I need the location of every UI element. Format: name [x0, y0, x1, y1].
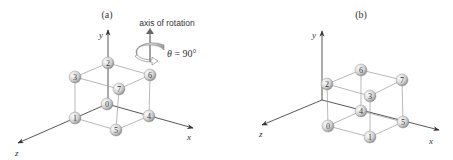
panel-a-label: (a): [101, 9, 112, 21]
cube-edges-a: [75, 63, 150, 130]
node-b-2: 2: [321, 78, 333, 90]
x-axis-label: x: [428, 136, 433, 146]
svg-text:1: 1: [368, 133, 372, 142]
cube-rotation-diagram: (a) y x z axis of rotation θ = 90°: [0, 0, 453, 160]
axis-of-rotation-label: axis of rotation: [139, 18, 195, 28]
node-b-5: 5: [397, 116, 409, 128]
svg-text:0: 0: [326, 122, 330, 131]
panel-b: (b) y x z 6 2 7 3 4: [258, 9, 439, 146]
node-b-4: 4: [355, 105, 367, 117]
y-axis-label: y: [311, 30, 316, 40]
svg-text:5: 5: [114, 126, 118, 135]
rotation-angle-label: θ = 90°: [167, 48, 197, 59]
y-axis-label: y: [98, 30, 103, 40]
node-a-5: 5: [110, 124, 122, 136]
svg-text:6: 6: [148, 71, 152, 80]
cube-nodes-a: 2 3 6 7 0 1 4 5: [69, 57, 156, 136]
rotation-axis-arrowhead-icon: [146, 28, 154, 34]
node-a-6: 6: [144, 69, 156, 81]
svg-text:5: 5: [401, 118, 405, 127]
svg-text:7: 7: [117, 85, 121, 94]
node-b-3: 3: [364, 90, 376, 102]
node-a-1: 1: [69, 112, 81, 124]
svg-text:0: 0: [105, 100, 109, 109]
x-axis: [322, 100, 439, 130]
z-axis-label: z: [258, 129, 263, 139]
svg-text:4: 4: [359, 107, 363, 116]
panel-a: (a) y x z axis of rotation θ = 90°: [14, 9, 197, 158]
node-b-7: 7: [396, 74, 408, 86]
node-a-7: 7: [113, 83, 125, 95]
svg-text:2: 2: [106, 59, 110, 68]
svg-text:1: 1: [73, 114, 77, 123]
x-axis-label: x: [186, 132, 191, 142]
node-a-4: 4: [143, 110, 155, 122]
z-axis-label: z: [14, 148, 19, 158]
node-b-6: 6: [355, 64, 367, 76]
svg-text:2: 2: [325, 80, 329, 89]
svg-text:3: 3: [368, 92, 372, 101]
svg-text:6: 6: [359, 66, 363, 75]
z-axis: [262, 100, 322, 125]
svg-text:4: 4: [147, 112, 151, 121]
svg-text:7: 7: [400, 76, 404, 85]
svg-text:3: 3: [73, 73, 77, 82]
node-a-0: 0: [101, 98, 113, 110]
node-a-2: 2: [102, 57, 114, 69]
node-b-1: 1: [364, 131, 376, 143]
panel-b-label: (b): [355, 9, 367, 21]
node-a-3: 3: [69, 71, 81, 83]
cube-edges-b: [327, 70, 403, 137]
node-b-0: 0: [322, 120, 334, 132]
